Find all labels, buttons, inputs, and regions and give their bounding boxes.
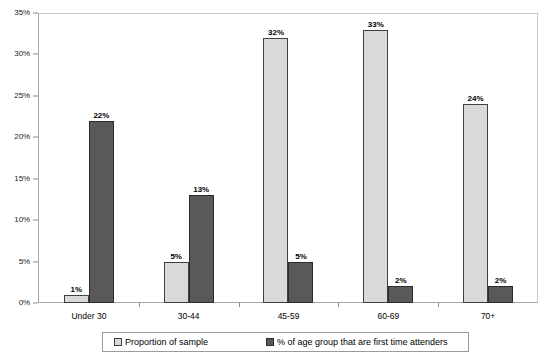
y-axis-tick-mark (33, 220, 38, 221)
legend-item-label: Proportion of sample (125, 337, 208, 347)
bar-group: 1%22% (39, 13, 139, 303)
bars-plot-area: 1%22%5%13%32%5%33%2%24%2% (39, 13, 538, 303)
y-axis-tick-mark (33, 178, 38, 179)
bar[interactable]: 2% (388, 286, 413, 303)
bar-group: 32%5% (239, 13, 339, 303)
x-axis: Under 3030-4445-5960-6970+ (39, 303, 538, 325)
bar-value-label: 22% (93, 111, 109, 120)
bar-value-label: 32% (268, 28, 284, 37)
bar-group: 33%2% (338, 13, 438, 303)
bar-value-label: 24% (468, 94, 484, 103)
bar[interactable]: 5% (288, 262, 313, 303)
bar-value-label: 2% (495, 276, 507, 285)
y-axis-tick-mark (33, 261, 38, 262)
y-axis-tick-label: 20% (14, 133, 30, 141)
x-axis-tick-label: 70+ (481, 311, 495, 321)
x-axis-tick-mark (438, 303, 439, 307)
y-axis-tick-mark (33, 13, 38, 14)
legend-item-label: % of age group that are first time atten… (277, 337, 448, 347)
y-axis-tick-label: 15% (14, 175, 30, 183)
y-axis-tick-label: 35% (14, 9, 30, 17)
x-axis-tick-mark (239, 303, 240, 307)
bar[interactable]: 5% (164, 262, 189, 303)
y-axis-tick-label: 5% (19, 258, 30, 266)
chart-legend: Proportion of sample % of age group that… (102, 332, 469, 352)
y-axis-tick-mark (33, 95, 38, 96)
y-axis-tick-mark (33, 303, 38, 304)
bar[interactable]: 32% (263, 38, 288, 303)
x-axis-tick-label: 45-59 (278, 311, 300, 321)
bar-value-label: 13% (193, 185, 209, 194)
y-axis-tick-mark (33, 137, 38, 138)
bar-value-label: 5% (170, 252, 182, 261)
y-axis: 0%5%10%15%20%25%30%35% (0, 13, 38, 303)
bar[interactable]: 22% (89, 121, 114, 303)
x-axis-tick-mark (139, 303, 140, 307)
bar[interactable]: 33% (363, 30, 388, 303)
bar-value-label: 33% (368, 20, 384, 29)
bar-value-label: 2% (395, 276, 407, 285)
bar[interactable]: 13% (189, 195, 214, 303)
y-axis-tick-label: 25% (14, 92, 30, 100)
bar[interactable]: 1% (64, 295, 89, 303)
dark-gray-square-icon (266, 338, 274, 346)
y-axis-tick-label: 0% (19, 299, 30, 307)
legend-item-proportion-of-sample[interactable]: Proportion of sample (114, 337, 208, 347)
bar-value-label: 1% (71, 285, 83, 294)
y-axis-tick-label: 10% (14, 216, 30, 224)
y-axis-tick-mark (33, 54, 38, 55)
bar-group: 5%13% (139, 13, 239, 303)
light-gray-square-icon (114, 338, 122, 346)
x-axis-tick-label: 60-69 (377, 311, 399, 321)
x-axis-tick-label: 30-44 (178, 311, 200, 321)
y-axis-tick-label: 30% (14, 50, 30, 58)
bar-value-label: 5% (295, 252, 307, 261)
bar-group: 24%2% (438, 13, 538, 303)
x-axis-tick-label: Under 30 (71, 311, 106, 321)
bar-chart: 0%5%10%15%20%25%30%35% 1%22%5%13%32%5%33… (0, 0, 555, 359)
bar[interactable]: 2% (488, 286, 513, 303)
bar[interactable]: 24% (463, 104, 488, 303)
legend-item-first-time-attenders[interactable]: % of age group that are first time atten… (266, 337, 448, 347)
x-axis-tick-mark (338, 303, 339, 307)
